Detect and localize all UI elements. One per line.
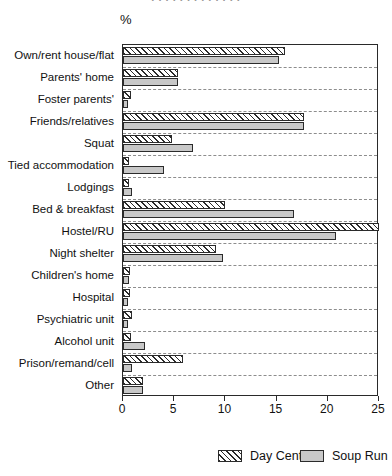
axis-unit-label: % xyxy=(120,12,132,27)
bar-day-centre xyxy=(123,377,143,385)
x-tick xyxy=(122,396,123,401)
bar-day-centre xyxy=(123,289,130,297)
category-label: Lodgings xyxy=(0,176,114,198)
bar-day-centre xyxy=(123,333,131,341)
bar-group xyxy=(123,331,377,353)
bar-group xyxy=(123,177,377,199)
bar-day-centre xyxy=(123,157,129,165)
cut-off-caption: · · · · · · · · · · · · · xyxy=(0,0,392,6)
bar-day-centre xyxy=(123,355,183,363)
bar-soup-run xyxy=(123,320,128,328)
category-label: Tied accommodation xyxy=(0,154,114,176)
category-label-list: Own/rent house/flatParents' homeFoster p… xyxy=(0,44,118,396)
bar-day-centre xyxy=(123,201,225,209)
bar-group xyxy=(123,67,377,89)
x-tick-label: 5 xyxy=(153,402,193,416)
bar-soup-run xyxy=(123,364,132,372)
x-tick-label: 25 xyxy=(358,402,392,416)
bar-group xyxy=(123,243,377,265)
bar-day-centre xyxy=(123,245,216,253)
bar-day-centre xyxy=(123,69,178,77)
bar-day-centre xyxy=(123,311,132,319)
bar-group xyxy=(123,155,377,177)
category-label: Psychiatric unit xyxy=(0,308,114,330)
x-tick-label: 20 xyxy=(307,402,347,416)
category-label: Prison/remand/cell xyxy=(0,352,114,374)
category-label: Parents' home xyxy=(0,66,114,88)
bar-group xyxy=(123,133,377,155)
bar-soup-run xyxy=(123,254,223,262)
category-label: Own/rent house/flat xyxy=(0,44,114,66)
category-label: Night shelter xyxy=(0,242,114,264)
bar-day-centre xyxy=(123,135,172,143)
bar-soup-run xyxy=(123,78,178,86)
category-label: Other xyxy=(0,374,114,396)
category-label: Hostel/RU xyxy=(0,220,114,242)
x-tick-label: 10 xyxy=(204,402,244,416)
bar-day-centre xyxy=(123,223,379,231)
bar-group xyxy=(123,375,377,397)
bar-soup-run xyxy=(123,210,294,218)
bar-group xyxy=(123,287,377,309)
category-label: Bed & breakfast xyxy=(0,198,114,220)
bar-group xyxy=(123,353,377,375)
legend-item-soup-run[interactable]: Soup Run xyxy=(300,446,388,466)
bar-group xyxy=(123,221,377,243)
chart-page: · · · · · · · · · · · · · % Own/rent hou… xyxy=(0,0,392,476)
x-tick xyxy=(327,396,328,401)
category-label: Friends/relatives xyxy=(0,110,114,132)
bar-soup-run xyxy=(123,276,129,284)
bar-group xyxy=(123,309,377,331)
bar-group xyxy=(123,45,377,67)
legend-swatch-icon xyxy=(300,450,324,462)
bar-day-centre xyxy=(123,179,129,187)
x-axis-tick-labels: 0510152025 xyxy=(0,402,392,418)
bar-soup-run xyxy=(123,386,143,394)
bar-soup-run xyxy=(123,56,279,64)
category-label: Foster parents' xyxy=(0,88,114,110)
bar-group xyxy=(123,111,377,133)
legend-label: Soup Run xyxy=(332,449,388,463)
chart-legend: Day CentreSoup Run xyxy=(0,446,392,468)
bar-group xyxy=(123,199,377,221)
bar-day-centre xyxy=(123,267,130,275)
bar-group xyxy=(123,89,377,111)
bar-soup-run xyxy=(123,342,145,350)
x-tick-label: 15 xyxy=(256,402,296,416)
bar-soup-run xyxy=(123,166,164,174)
bar-soup-run xyxy=(123,100,128,108)
bar-soup-run xyxy=(123,188,132,196)
bar-day-centre xyxy=(123,91,131,99)
x-tick xyxy=(224,396,225,401)
x-tick xyxy=(378,396,379,401)
bar-day-centre xyxy=(123,113,304,121)
x-tick xyxy=(173,396,174,401)
legend-item-day-centre[interactable]: Day Centre xyxy=(218,446,313,466)
x-tick xyxy=(276,396,277,401)
plot-area xyxy=(122,44,378,396)
bar-soup-run xyxy=(123,144,193,152)
category-label: Hospital xyxy=(0,286,114,308)
category-label: Squat xyxy=(0,132,114,154)
legend-swatch-icon xyxy=(218,450,242,462)
bar-group xyxy=(123,265,377,287)
bar-soup-run xyxy=(123,232,336,240)
bar-soup-run xyxy=(123,298,128,306)
category-label: Children's home xyxy=(0,264,114,286)
category-label: Alcohol unit xyxy=(0,330,114,352)
x-tick-label: 0 xyxy=(102,402,142,416)
bar-day-centre xyxy=(123,47,285,55)
bar-soup-run xyxy=(123,122,304,130)
